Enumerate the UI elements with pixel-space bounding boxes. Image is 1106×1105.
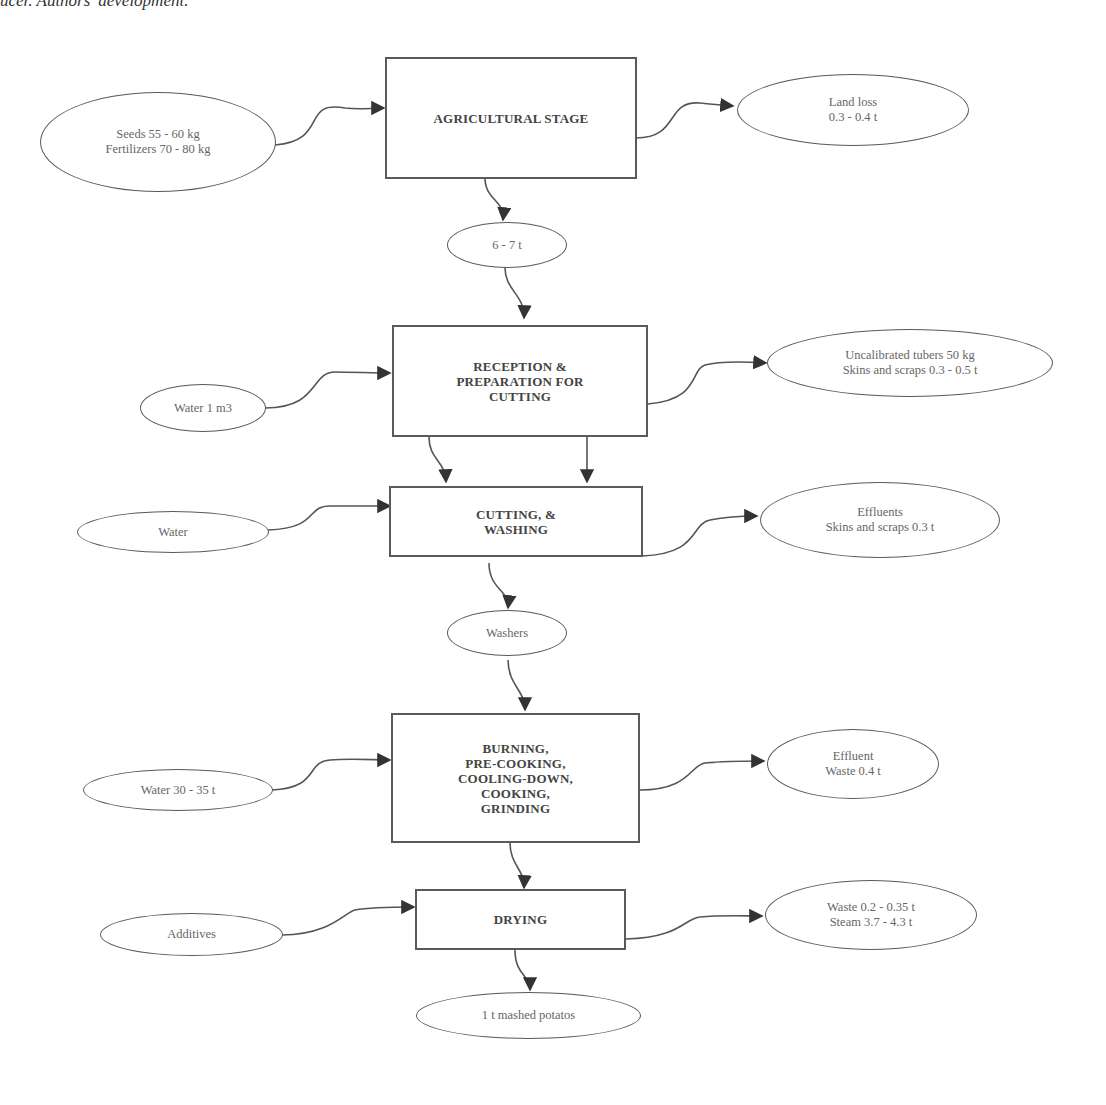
output-line: Effluent	[833, 749, 874, 764]
process-label-line: PRE-COOKING,	[465, 756, 565, 771]
process-reception-preparation: RECEPTION & PREPARATION FOR CUTTING	[392, 325, 648, 437]
process-label-line: CUTTING, &	[476, 507, 556, 522]
input-additives: Additives	[100, 913, 283, 956]
input-line: Fertilizers 70 - 80 kg	[106, 142, 211, 157]
input-label: Additives	[167, 927, 216, 942]
process-drying: DRYING	[415, 889, 626, 950]
process-label-line: COOKING,	[481, 786, 550, 801]
output-line: Waste 0.2 - 0.35 t	[827, 900, 915, 915]
process-label-line: PREPARATION FOR	[456, 374, 583, 389]
input-water: Water	[77, 511, 269, 553]
output-line: 0.3 - 0.4 t	[829, 110, 877, 125]
final-product-mashed-potatoes: 1 t mashed potatos	[416, 992, 641, 1039]
process-agricultural-stage: AGRICULTURAL STAGE	[385, 57, 637, 179]
output-waste-steam: Waste 0.2 - 0.35 t Steam 3.7 - 4.3 t	[765, 880, 977, 950]
process-label-line: CUTTING	[489, 389, 551, 404]
process-label-line: RECEPTION &	[473, 359, 567, 374]
output-effluents-skins: Effluents Skins and scraps 0.3 t	[760, 482, 1000, 558]
output-line: Waste 0.4 t	[825, 764, 881, 779]
output-line: Skins and scraps 0.3 t	[826, 520, 935, 535]
process-label-line: WASHING	[484, 522, 548, 537]
input-seeds-fertilizers: Seeds 55 - 60 kg Fertilizers 70 - 80 kg	[40, 92, 276, 192]
process-cutting-washing: CUTTING, & WASHING	[389, 486, 643, 557]
input-label: Water	[158, 525, 188, 540]
process-label: AGRICULTURAL STAGE	[434, 111, 589, 126]
output-line: Uncalibrated tubers 50 kg	[845, 348, 974, 363]
process-label-line: GRINDING	[481, 801, 551, 816]
output-line: Steam 3.7 - 4.3 t	[830, 915, 913, 930]
final-label: 1 t mashed potatos	[482, 1008, 575, 1023]
input-water-1m3: Water 1 m3	[140, 384, 266, 432]
intermediate-label: 6 - 7 t	[492, 238, 522, 253]
intermediate-6-7t: 6 - 7 t	[447, 222, 567, 268]
output-uncalibrated-skins: Uncalibrated tubers 50 kg Skins and scra…	[767, 329, 1053, 397]
process-label-line: COOLING-DOWN,	[458, 771, 573, 786]
input-label: Water 30 - 35 t	[141, 783, 216, 798]
process-burning-cooking-grinding: BURNING, PRE-COOKING, COOLING-DOWN, COOK…	[391, 713, 640, 843]
output-land-loss: Land loss 0.3 - 0.4 t	[737, 74, 969, 146]
intermediate-washers: Washers	[447, 610, 567, 656]
process-label-line: BURNING,	[482, 741, 548, 756]
intermediate-label: Washers	[486, 626, 528, 641]
output-line: Skins and scraps 0.3 - 0.5 t	[843, 363, 978, 378]
output-effluent-waste: Effluent Waste 0.4 t	[767, 729, 939, 799]
output-line: Land loss	[829, 95, 877, 110]
output-line: Effluents	[857, 505, 903, 520]
input-line: Seeds 55 - 60 kg	[116, 127, 199, 142]
process-label: DRYING	[494, 912, 547, 927]
input-water-30-35t: Water 30 - 35 t	[83, 769, 273, 811]
input-label: Water 1 m3	[174, 401, 232, 416]
